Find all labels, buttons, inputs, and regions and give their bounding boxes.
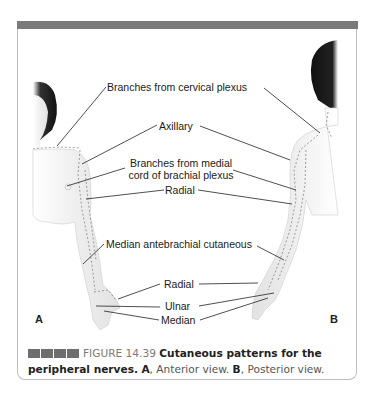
label-axillary: Axillary bbox=[159, 120, 193, 132]
figure-caption: FIGURE 14.39 Cutaneous patterns for the … bbox=[28, 346, 348, 377]
label-medial-cord-line1: Branches from medial bbox=[126, 157, 236, 169]
label-median: Median bbox=[161, 314, 195, 326]
anatomy-illustration bbox=[0, 0, 367, 398]
label-radial-upper: Radial bbox=[165, 184, 195, 196]
label-radial-lower: Radial bbox=[164, 278, 194, 290]
label-medial-cord-line2: cord of brachial plexus bbox=[126, 169, 236, 181]
caption-figure-number: FIGURE 14.39 bbox=[83, 347, 156, 359]
anterior-figure bbox=[33, 82, 120, 330]
caption-b-letter: B bbox=[233, 363, 241, 375]
label-medial-cord: Branches from medial cord of brachial pl… bbox=[126, 157, 236, 181]
caption-a-text: , Anterior view. bbox=[150, 363, 233, 375]
label-cervical-plexus: Branches from cervical plexus bbox=[107, 81, 247, 93]
label-median-antebrachial: Median antebrachial cutaneous bbox=[106, 238, 252, 250]
label-ulnar: Ulnar bbox=[165, 300, 190, 312]
caption-b-text: , Posterior view. bbox=[241, 363, 325, 375]
caption-marker-blocks bbox=[28, 347, 80, 362]
panel-label-a: A bbox=[35, 313, 43, 325]
panel-label-b: B bbox=[330, 313, 338, 325]
caption-a-letter: A bbox=[141, 363, 149, 375]
